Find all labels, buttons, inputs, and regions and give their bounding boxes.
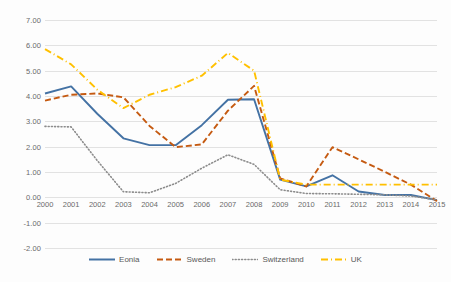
x-axis-tick-label: 2004 (141, 200, 158, 209)
legend-item-uk[interactable]: UK (321, 255, 362, 264)
x-axis-tick-label: 2008 (246, 200, 263, 209)
x-axis-tick-label: 2006 (193, 200, 210, 209)
x-axis-tick-label: 2005 (167, 200, 184, 209)
x-axis-tick-label: 2012 (350, 200, 367, 209)
series-line-switzerland (45, 126, 437, 199)
x-axis-tick-label: 2014 (403, 200, 420, 209)
x-axis: 2000200120022003200420052006200720082009… (45, 200, 437, 214)
series-line-eonia (45, 86, 437, 200)
legend-swatch-sweden (157, 255, 183, 264)
y-axis-tick-label: -2.00 (23, 244, 41, 253)
legend-item-switzerland[interactable]: Switzerland (232, 255, 303, 264)
legend-label: UK (351, 255, 362, 264)
series-line-uk (45, 49, 437, 185)
y-axis: 7.006.005.004.003.002.001.000.00-1.00-2.… (0, 20, 41, 248)
legend-swatch-switzerland (232, 255, 258, 264)
x-axis-tick-label: 2003 (115, 200, 132, 209)
legend-label: Sweden (187, 255, 216, 264)
y-axis-tick-label: 5.00 (26, 66, 41, 75)
x-axis-tick-label: 2013 (376, 200, 393, 209)
legend-label: Switzerland (262, 255, 303, 264)
legend-item-sweden[interactable]: Sweden (157, 255, 216, 264)
y-axis-tick-label: 2.00 (26, 142, 41, 151)
x-axis-tick-label: 2001 (63, 200, 80, 209)
x-axis-tick-label: 2007 (220, 200, 237, 209)
x-axis-tick-label: 2009 (272, 200, 289, 209)
gridline (45, 248, 437, 249)
legend-item-eonia[interactable]: Eonia (89, 255, 139, 264)
chart-legend: EoniaSwedenSwitzerlandUK (0, 255, 451, 264)
y-axis-tick-label: 1.00 (26, 168, 41, 177)
x-axis-tick-label: 2000 (37, 200, 54, 209)
y-axis-tick-label: -1.00 (23, 218, 41, 227)
x-axis-tick-label: 2015 (429, 200, 446, 209)
x-axis-tick-label: 2010 (298, 200, 315, 209)
y-axis-tick-label: 7.00 (26, 16, 41, 25)
y-axis-tick-label: 4.00 (26, 92, 41, 101)
x-axis-tick-label: 2002 (89, 200, 106, 209)
y-axis-tick-label: 6.00 (26, 41, 41, 50)
legend-label: Eonia (119, 255, 139, 264)
x-axis-tick-label: 2011 (324, 200, 340, 209)
series-line-sweden (45, 86, 437, 201)
line-chart: 7.006.005.004.003.002.001.000.00-1.00-2.… (0, 0, 451, 282)
legend-swatch-uk (321, 255, 347, 264)
legend-swatch-eonia (89, 255, 115, 264)
y-axis-tick-label: 3.00 (26, 117, 41, 126)
